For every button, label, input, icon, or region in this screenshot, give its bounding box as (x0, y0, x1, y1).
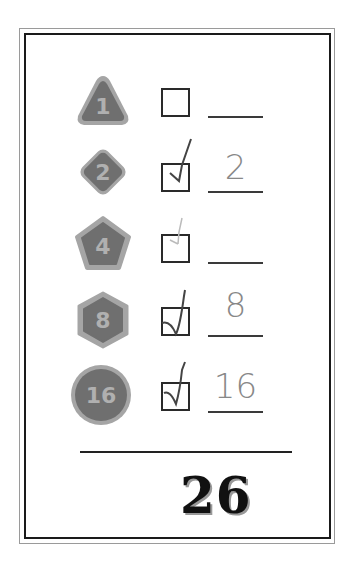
hexagon-badge-icon: 8 (74, 291, 132, 349)
answer-line (208, 411, 263, 413)
badge-number: 8 (74, 291, 132, 349)
row-4: 8 8 (0, 291, 352, 351)
answer-text[interactable]: 16 (208, 366, 263, 406)
answer-text[interactable]: 8 (208, 285, 263, 325)
badge-number: 4 (74, 215, 132, 273)
checkmark-icon (158, 282, 206, 337)
diamond-badge-icon: 2 (74, 143, 132, 201)
badge-number: 2 (74, 143, 132, 201)
faint-checkmark-icon (158, 210, 206, 265)
answer-line (208, 116, 263, 118)
checkmark-icon (158, 360, 206, 415)
checkbox[interactable] (161, 88, 190, 117)
total-value: 26 (180, 466, 280, 525)
badge-number: 1 (74, 72, 132, 130)
answer-line (208, 335, 263, 337)
answer-line (208, 262, 263, 264)
row-2: 2 2 (0, 143, 352, 203)
checkmark-icon (158, 137, 206, 192)
answer-line (208, 191, 263, 193)
badge-number: 16 (70, 364, 132, 426)
row-1: 1 (0, 72, 352, 132)
row-5: 16 16 (0, 364, 352, 424)
answer-text[interactable]: 2 (208, 147, 263, 187)
circle-badge-icon: 16 (70, 364, 132, 426)
pentagon-badge-icon: 4 (74, 215, 132, 273)
row-3: 4 (0, 215, 352, 275)
sum-line (80, 451, 292, 453)
triangle-badge-icon: 1 (74, 72, 132, 130)
